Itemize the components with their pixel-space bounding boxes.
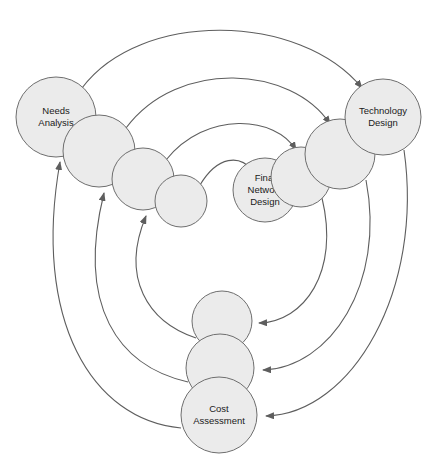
node-label-line: Needs bbox=[42, 105, 70, 116]
flow-arrow-arc-bottom1-to-left3 bbox=[136, 216, 196, 338]
flow-arrow-arc-needs-to-technology-outer bbox=[82, 30, 362, 88]
nodes-layer: NeedsAnalysisFinalNetworkDesignTechnolog… bbox=[16, 77, 421, 453]
node-cost-assessment[interactable]: CostAssessment bbox=[181, 377, 257, 453]
flow-arrow-arc-left2-to-techchain3 bbox=[126, 78, 330, 128]
node-circle-left-chain-4[interactable] bbox=[155, 175, 207, 227]
node-label-line: Design bbox=[250, 196, 280, 207]
node-label-line: Cost bbox=[209, 403, 229, 414]
node-label-line: Assessment bbox=[193, 415, 245, 426]
node-label-line: Technology bbox=[359, 105, 407, 116]
node-label-needs-analysis: NeedsAnalysis bbox=[38, 105, 74, 128]
node-technology-design[interactable]: TechnologyDesign bbox=[345, 79, 421, 155]
node-label-line: Analysis bbox=[38, 117, 74, 128]
node-label-line: Design bbox=[368, 117, 398, 128]
diagram-canvas: NeedsAnalysisFinalNetworkDesignTechnolog… bbox=[0, 0, 442, 470]
network-design-cycle-diagram: NeedsAnalysisFinalNetworkDesignTechnolog… bbox=[0, 0, 442, 470]
node-left-chain-4[interactable] bbox=[155, 175, 207, 227]
flow-arrow-arc-left3-to-rightchain2 bbox=[166, 123, 296, 160]
